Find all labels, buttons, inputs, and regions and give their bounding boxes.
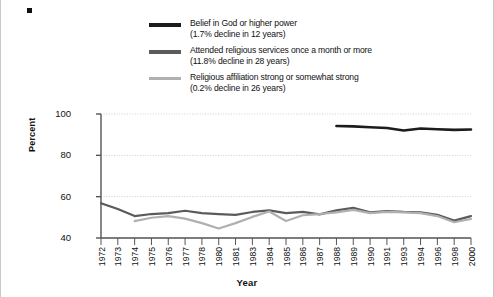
x-axis-tick: 1985 <box>282 247 292 266</box>
x-axis-tick: 1973 <box>113 247 123 266</box>
x-axis-tick: 1981 <box>231 247 241 266</box>
x-axis-tick: 1980 <box>214 247 224 266</box>
x-axis-tick: 1991 <box>382 247 392 266</box>
x-axis-tick: 1976 <box>164 247 174 266</box>
x-axis-tick: 1974 <box>130 247 140 266</box>
x-axis-tick: 1983 <box>248 247 258 266</box>
x-axis-tick: 1972 <box>97 247 107 266</box>
y-axis-title: Percent <box>27 118 37 152</box>
x-axis-tick: 1996 <box>433 247 443 266</box>
x-axis-tick: 1994 <box>416 247 426 266</box>
x-axis-tick: 1975 <box>147 247 157 266</box>
x-axis-tick: 1993 <box>399 247 409 266</box>
x-axis-tick: 1987 <box>315 247 325 266</box>
x-axis-tick-labels: 1972197319741975197619771978198019811983… <box>1 0 494 297</box>
figure-container: Belief in God or higher power (1.7% decl… <box>0 0 494 297</box>
x-axis-tick: 1990 <box>366 247 376 266</box>
x-axis-tick: 1989 <box>349 247 359 266</box>
x-axis-title: Year <box>1 277 493 288</box>
x-axis-tick: 1998 <box>450 247 460 266</box>
x-axis-tick: 1988 <box>332 247 342 266</box>
x-axis-tick: 1977 <box>181 247 191 266</box>
x-axis-tick: 1978 <box>197 247 207 266</box>
x-axis-tick: 1986 <box>298 247 308 266</box>
x-axis-tick: 1984 <box>265 247 275 266</box>
x-axis-tick: 2000 <box>467 247 477 266</box>
